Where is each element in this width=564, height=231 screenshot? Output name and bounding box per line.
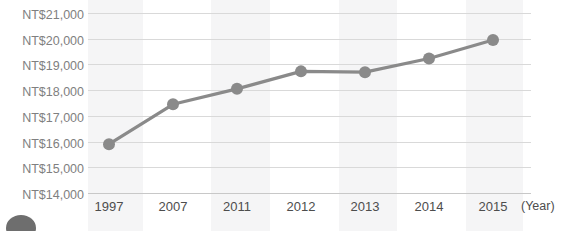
x-axis-tick-label: 2013 [351,199,380,214]
x-axis-tick-label: 2012 [287,199,316,214]
y-axis-tick-label: NT$14,000 [22,188,84,202]
x-axis-tick-label: 1997 [95,199,124,214]
corner-bullet-icon [6,215,36,231]
y-axis-tick: NT$21,000 [0,5,84,23]
x-axis-tick-label: 2014 [415,199,444,214]
x-axis-unit-label: (Year) [521,199,555,213]
x-axis-tick-label: 2015 [479,199,508,214]
x-axis-line [88,193,531,194]
y-axis-tick-label: NT$17,000 [22,111,84,125]
y-axis-tick: NT$17,000 [0,108,84,126]
data-point-marker [167,98,179,110]
x-axis-tick-label: 2007 [159,199,188,214]
line-chart: NT$21,000NT$20,000NT$19,000NT$18,000NT$1… [0,0,564,231]
series-line [109,40,493,144]
data-point-marker [231,83,243,95]
y-axis-tick-label: NT$21,000 [22,8,84,22]
data-point-marker [359,66,371,78]
y-axis-tick: NT$14,000 [0,185,84,203]
y-axis-tick: NT$15,000 [0,159,84,177]
y-axis-tick: NT$18,000 [0,82,84,100]
data-point-marker [487,34,499,46]
y-axis-tick-label: NT$16,000 [22,137,84,151]
y-axis-tick: NT$20,000 [0,31,84,49]
y-axis-tick: NT$19,000 [0,56,84,74]
y-axis-tick-label: NT$15,000 [22,162,84,176]
data-point-marker [423,53,435,65]
data-point-marker [295,65,307,77]
x-axis-tick-label: 2011 [223,199,251,214]
data-series-line [88,0,531,196]
y-axis-tick-label: NT$18,000 [22,85,84,99]
y-axis-tick-label: NT$20,000 [22,34,84,48]
plot-area [88,0,531,196]
y-axis-tick-label: NT$19,000 [22,59,84,73]
y-axis-tick: NT$16,000 [0,134,84,152]
data-point-marker [103,138,115,150]
